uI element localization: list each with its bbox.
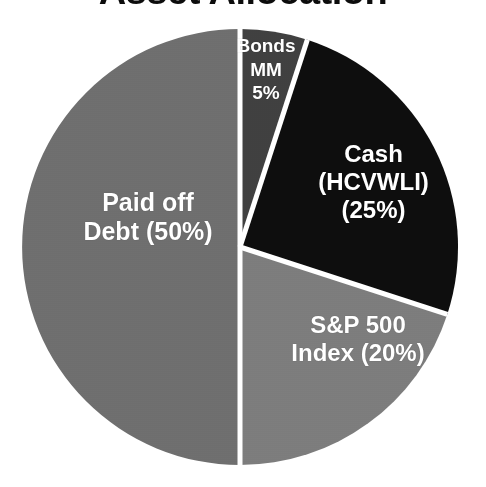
pie-chart-svg — [0, 0, 486, 487]
chart-page: Asset Allocation Paid off Debt (50%) Bon… — [0, 0, 486, 487]
pie-slice-paid-off-debt[interactable] — [22, 29, 240, 465]
pie-chart — [0, 0, 486, 487]
